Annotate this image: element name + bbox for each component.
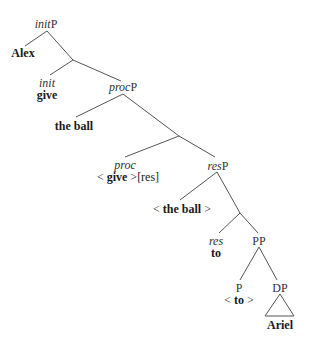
node-init-word: give [37, 89, 58, 101]
edge-bar-resP [179, 136, 215, 157]
trace-word: the ball [163, 202, 201, 216]
proc-word: give [107, 170, 128, 184]
DP-triangle [265, 294, 294, 316]
node-PP: PP [252, 235, 265, 247]
edge-bar-res [219, 213, 240, 233]
edge-bar-init [50, 60, 73, 75]
node-the-ball: the ball [55, 120, 93, 132]
initP-suffix: P [51, 17, 58, 31]
trace-open: < [153, 202, 163, 216]
initP-head: init [35, 17, 51, 31]
node-the-ball-trace: < the ball > [153, 203, 211, 215]
node-res-word: to [211, 247, 221, 259]
resP-suffix: P [222, 159, 229, 173]
edge-initP-bar [47, 31, 73, 60]
edge-initP-alex [25, 31, 47, 46]
node-DP: DP [272, 282, 287, 294]
node-alex: Alex [11, 47, 34, 59]
trace-close: > [244, 293, 254, 307]
edge-procP-theball [76, 94, 123, 117]
node-DP-word: Ariel [267, 319, 293, 331]
trace-open: < [97, 170, 107, 184]
node-proc-word: < give >[res] [97, 171, 159, 183]
P-word: to [234, 293, 244, 307]
procP-suffix: P [130, 80, 137, 94]
trace-close: > [201, 202, 211, 216]
edge-bar-PP [240, 213, 258, 233]
edge-bar-proc [125, 136, 179, 157]
edge-resP-bar [217, 172, 240, 213]
node-resP: resP [208, 160, 229, 172]
trace-open: < [224, 293, 234, 307]
edge-bar-procP [73, 60, 121, 81]
edge-PP-P [240, 247, 259, 280]
node-procP: procP [109, 81, 137, 93]
edge-resP-theball-trace [180, 172, 217, 200]
edge-PP-DP [259, 247, 277, 280]
node-P-word: < to > [224, 294, 254, 306]
node-initP: initP [35, 18, 58, 30]
trace-close: > [127, 170, 137, 184]
procP-head: proc [109, 80, 131, 94]
edge-procP-bar [123, 94, 179, 136]
resP-head: res [208, 159, 222, 173]
proc-feature: [res] [137, 170, 159, 184]
